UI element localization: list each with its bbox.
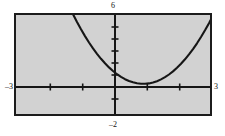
plot-frame: [14, 13, 212, 116]
x-axis: [16, 84, 210, 91]
x-max-label: 3: [214, 82, 224, 91]
graph-screenshot: 6 –2 –3 3: [0, 0, 225, 136]
parabola-curve: [66, 15, 211, 84]
x-min-label: –3: [1, 82, 13, 91]
plot-area: [16, 15, 210, 114]
y-max-label: 6: [104, 1, 122, 10]
y-axis: [112, 15, 119, 114]
y-min-label: –2: [101, 120, 125, 129]
